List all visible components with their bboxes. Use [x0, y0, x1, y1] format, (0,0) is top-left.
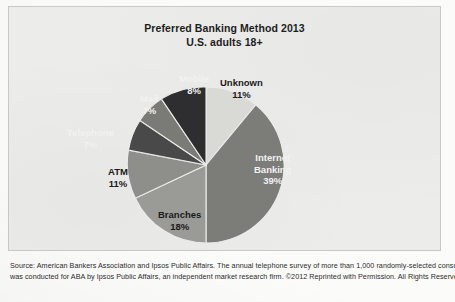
pie-label-telephone-percent: 7%: [67, 139, 114, 151]
pie-label-telephone-name: Telephone: [67, 127, 114, 139]
pie-label-internet-banking-name2: Banking: [254, 164, 291, 176]
pie-label-mobile: Mobile 8%: [179, 73, 209, 96]
pie-label-branches: Branches 18%: [158, 209, 201, 232]
chart-panel: Preferred Banking Method 2013 U.S. adult…: [8, 6, 441, 251]
pie-label-internet-banking: Internet Banking 39%: [254, 152, 291, 187]
source-note-line-1: Source: American Bankers Association and…: [10, 260, 446, 271]
pie-label-atm-name: ATM: [108, 166, 128, 178]
pie-label-atm-percent: 11%: [108, 178, 128, 190]
source-note: Source: American Bankers Association and…: [10, 260, 446, 282]
pie-label-unknown-name: Unknown: [220, 77, 263, 89]
pie-label-mobile-name: Mobile: [179, 73, 209, 85]
chart-title: Preferred Banking Method 2013 U.S. adult…: [9, 21, 440, 49]
pie-label-branches-percent: 18%: [158, 221, 201, 233]
source-note-line-2: was conducted for ABA by Ipsos Public Af…: [10, 271, 446, 282]
chart-title-line-2: U.S. adults 18+: [9, 35, 440, 49]
pie-label-branches-name: Branches: [158, 209, 201, 221]
pie-label-internet-banking-name: Internet: [254, 152, 291, 164]
pie-label-mail-name: Mail: [140, 93, 158, 105]
pie-label-atm: ATM 11%: [108, 166, 128, 189]
pie-label-mail-percent: 7%: [140, 105, 158, 117]
pie-label-unknown-percent: 11%: [220, 89, 263, 101]
pie-label-mobile-percent: 8%: [179, 85, 209, 97]
pie-label-telephone: Telephone 7%: [67, 127, 114, 150]
scanned-page: Preferred Banking Method 2013 U.S. adult…: [0, 0, 455, 302]
chart-title-line-1: Preferred Banking Method 2013: [9, 21, 440, 35]
pie-label-mail: Mail 7%: [140, 93, 158, 116]
pie-label-unknown: Unknown 11%: [220, 77, 263, 100]
pie-label-internet-banking-percent: 39%: [254, 175, 291, 187]
